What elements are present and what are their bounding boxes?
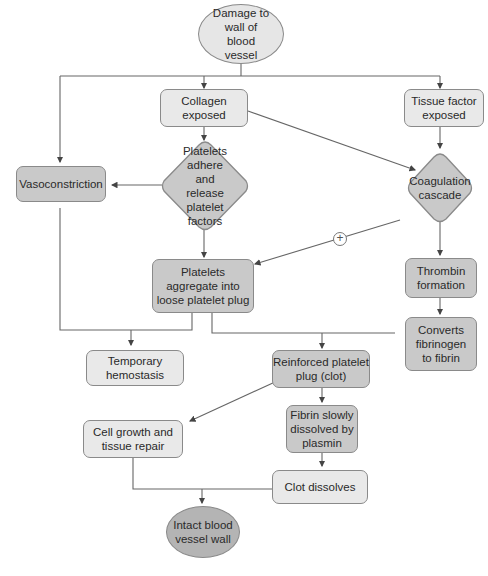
node-thrombin: Thrombin formation xyxy=(405,258,477,298)
node-vasoconstriction-label: Vasoconstriction xyxy=(19,177,103,191)
node-thrombin-label: Thrombin formation xyxy=(411,264,471,292)
node-platelets-adhere-label: Platelets adhere and release platelet fa… xyxy=(177,144,233,228)
node-aggregate: Platelets aggregate into loose platelet … xyxy=(152,259,254,313)
node-intact-label: Intact blood vessel wall xyxy=(173,518,233,546)
node-coagulation-label: Coagulation cascade xyxy=(407,174,473,202)
node-converts: Converts fibrinogen to fibrin xyxy=(405,317,477,371)
node-fibrin-dissolved-label: Fibrin slowly dissolved by plasmin xyxy=(289,408,355,450)
node-converts-label: Converts fibrinogen to fibrin xyxy=(410,323,472,365)
node-platelets-adhere: Platelets adhere and release platelet fa… xyxy=(160,140,250,232)
node-fibrin-dissolved: Fibrin slowly dissolved by plasmin xyxy=(286,405,358,453)
edge-collagen-coagulation xyxy=(248,111,415,170)
edge-cellgrowth-down xyxy=(133,458,272,489)
node-collagen: Collagen exposed xyxy=(160,89,248,127)
node-temporary: Temporary hemostasis xyxy=(86,350,184,386)
node-tissue-factor: Tissue factor exposed xyxy=(404,89,484,127)
node-intact: Intact blood vessel wall xyxy=(166,506,240,558)
node-cell-growth-label: Cell growth and tissue repair xyxy=(91,425,175,453)
edge-coagulation-aggregate xyxy=(255,220,400,264)
node-temporary-label: Temporary hemostasis xyxy=(99,354,171,382)
node-damage-label: Damage to wall of blood vessel xyxy=(210,6,272,62)
node-damage: Damage to wall of blood vessel xyxy=(198,4,284,64)
node-reinforced: Reinforced platelet plug (clot) xyxy=(272,350,370,388)
node-reinforced-label: Reinforced platelet plug (clot) xyxy=(273,355,369,383)
node-coagulation: Coagulation cascade xyxy=(406,152,474,224)
edge-aggregate-reinforced xyxy=(212,312,395,333)
edge-reinforced-cellgrowth xyxy=(190,382,275,421)
node-cell-growth: Cell growth and tissue repair xyxy=(83,420,183,458)
node-vasoconstriction: Vasoconstriction xyxy=(16,166,106,202)
positive-feedback-icon: + xyxy=(333,232,347,246)
node-aggregate-label: Platelets aggregate into loose platelet … xyxy=(155,265,251,307)
node-collagen-label: Collagen exposed xyxy=(174,94,234,122)
node-clot-dissolves-label: Clot dissolves xyxy=(285,480,356,494)
node-clot-dissolves: Clot dissolves xyxy=(272,470,368,504)
node-tissue-factor-label: Tissue factor exposed xyxy=(411,94,477,122)
